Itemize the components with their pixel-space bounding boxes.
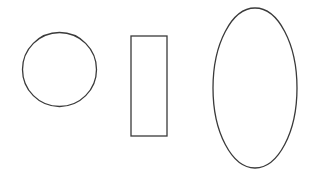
shapes-canvas (0, 0, 310, 182)
background (0, 0, 310, 182)
